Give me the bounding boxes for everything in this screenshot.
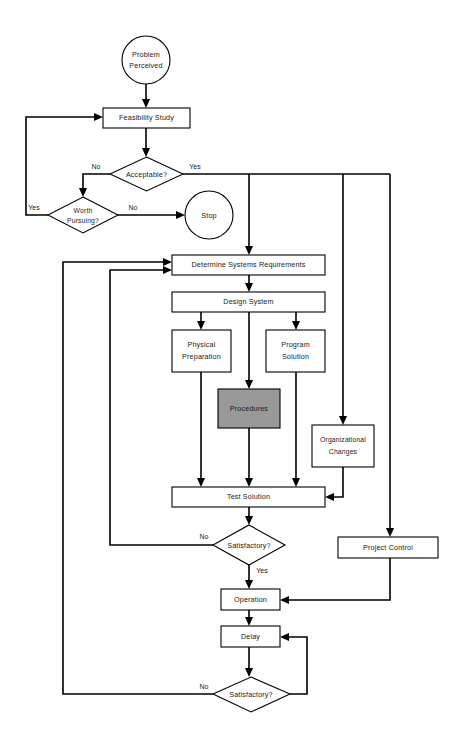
arrowhead-project-control-to-operation [280, 596, 289, 604]
edge-project-control-to-operation [287, 558, 390, 600]
worth-pursuing-label-line1: Worth [74, 207, 93, 214]
arrowhead-yes-to-determine [245, 246, 253, 255]
node-satisfactory-test[interactable]: Satisfactory? [213, 525, 285, 565]
problem-perceived-label-line2: Perceived [129, 61, 162, 70]
determine-systems-requirements-label: Determine Systems Requirements [192, 260, 306, 269]
edge-label-satisfactory-test-yes: Yes [256, 567, 268, 574]
arrowhead-worth-no [176, 211, 185, 219]
edge-label-worth-pursuing-no: No [129, 204, 138, 211]
node-feasibility-study[interactable]: Feasibility Study [103, 108, 190, 128]
arrowhead-determine-to-design [245, 283, 253, 292]
node-procedures[interactable]: Procedures [218, 389, 280, 428]
worth-pursuing-diamond [48, 197, 118, 233]
stop-label: Stop [201, 211, 216, 220]
arrowhead-org-changes-to-test [325, 493, 334, 501]
arrowhead-worth-yes [94, 113, 103, 121]
node-design-system[interactable]: Design System [172, 292, 325, 312]
program-solution-label-line2: Solution [282, 352, 309, 361]
arrowhead-yes-to-org-changes [339, 416, 347, 425]
edge-org-changes-to-test [331, 467, 343, 497]
program-solution-label-line1: Program [281, 340, 310, 349]
arrowhead-operation-to-delay [245, 617, 253, 626]
organizational-changes-label-line2: Changes [329, 448, 358, 456]
satisfactory-test-label: Satisfactory? [227, 541, 271, 550]
procedures-label: Procedures [230, 404, 269, 413]
organizational-changes-label-line1: Organizational [320, 436, 366, 444]
project-control-label: Project Control [363, 543, 413, 552]
arrowhead-yes-to-project-control [386, 528, 394, 537]
arrowhead-design-to-physical [197, 321, 205, 330]
arrowhead-satisfactory-test-yes [245, 580, 253, 589]
delay-label: Delay [241, 632, 260, 641]
node-stop[interactable]: Stop [185, 191, 233, 239]
physical-preparation-label-line1: Physical [188, 340, 216, 349]
edge-label-worth-pursuing-yes: Yes [28, 204, 40, 211]
connector-layer [26, 84, 394, 694]
organizational-changes-rect [312, 425, 374, 467]
edge-label-satisfactory-operation-no: No [200, 683, 209, 690]
satisfactory-operation-label: Satisfactory? [229, 690, 273, 699]
arrowhead-test-to-satisfactory [245, 516, 253, 525]
edge-label-satisfactory-test-no: No [200, 533, 209, 540]
worth-pursuing-label-line2: Pursuing? [67, 217, 99, 225]
arrowhead-satisfactory-operation-no [163, 258, 172, 266]
operation-label: Operation [234, 595, 267, 604]
node-project-control[interactable]: Project Control [338, 537, 438, 558]
node-operation[interactable]: Operation [221, 589, 280, 610]
edge-satisfactory-operation-no [63, 262, 213, 694]
arrowhead-feasibility-to-acceptable [142, 148, 150, 157]
test-solution-label: Test Solution [227, 492, 270, 501]
node-problem-perceived[interactable]: Problem Perceived [122, 36, 170, 84]
node-acceptable[interactable]: Acceptable? [110, 157, 183, 191]
feasibility-study-label: Feasibility Study [119, 113, 174, 122]
edge-label-acceptable-yes: Yes [189, 163, 201, 170]
physical-preparation-label-line2: Preparation [182, 352, 221, 361]
flowchart-canvas: Problem Perceived Feasibility Study Acce… [0, 0, 462, 746]
flowchart-diagram: Problem Perceived Feasibility Study Acce… [0, 0, 462, 746]
edge-satisfactory-operation-yes-to-delay [287, 637, 307, 694]
arrowhead-satisfactory-operation-yes [280, 633, 289, 641]
design-system-label: Design System [223, 297, 273, 306]
arrowhead-acceptable-no [79, 188, 87, 197]
edge-acceptable-no-to-worth [83, 174, 110, 190]
node-worth-pursuing[interactable]: Worth Pursuing? [48, 197, 118, 233]
arrowhead-physical-to-test [197, 478, 205, 487]
arrowhead-procedures-to-test [245, 478, 253, 487]
node-satisfactory-operation[interactable]: Satisfactory? [213, 677, 290, 712]
acceptable-label: Acceptable? [126, 170, 167, 179]
arrowhead-satisfactory-test-no [163, 266, 172, 274]
edge-label-acceptable-no: No [92, 163, 101, 170]
arrowhead-design-to-procedures [245, 380, 253, 389]
node-determine-systems-requirements[interactable]: Determine Systems Requirements [172, 255, 325, 275]
node-delay[interactable]: Delay [221, 626, 280, 647]
arrowhead-program-to-test [292, 478, 300, 487]
node-organizational-changes[interactable]: Organizational Changes [312, 425, 374, 467]
arrowhead-delay-to-satisfactory [245, 668, 253, 677]
arrowhead-problem-to-feasibility [142, 99, 150, 108]
arrowhead-design-to-program [292, 321, 300, 330]
node-test-solution[interactable]: Test Solution [172, 487, 325, 507]
node-program-solution[interactable]: Program Solution [266, 330, 325, 372]
node-physical-preparation[interactable]: Physical Preparation [172, 330, 231, 372]
problem-perceived-label-line1: Problem [132, 50, 160, 59]
